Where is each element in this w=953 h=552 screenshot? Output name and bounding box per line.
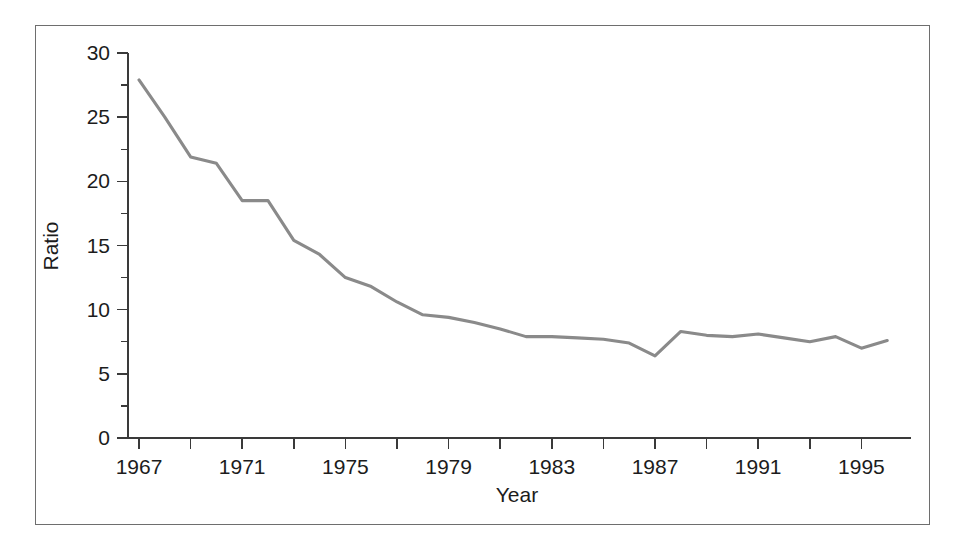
- y-axis-ticks: [117, 53, 128, 438]
- y-tick-label: 20: [87, 169, 110, 192]
- y-axis-title: Ratio: [39, 221, 62, 270]
- x-tick-label: 1995: [838, 455, 885, 478]
- x-axis-title: Year: [496, 483, 538, 506]
- figure-frame: 051015202530 196719711975197919831987199…: [35, 25, 930, 525]
- y-tick-label: 10: [87, 298, 110, 321]
- x-tick-label: 1983: [528, 455, 575, 478]
- x-tick-label: 1971: [219, 455, 266, 478]
- x-tick-label: 1991: [735, 455, 782, 478]
- y-tick-label: 25: [87, 105, 110, 128]
- y-tick-label: 15: [87, 234, 110, 257]
- line-chart: 051015202530 196719711975197919831987199…: [36, 26, 928, 523]
- y-tick-label: 30: [87, 41, 110, 64]
- x-tick-label: 1975: [322, 455, 369, 478]
- data-series-line: [139, 80, 887, 356]
- x-axis-ticks: [139, 438, 861, 449]
- y-tick-label: 5: [98, 362, 110, 385]
- x-tick-label: 1979: [425, 455, 472, 478]
- x-axis-tick-labels: 19671971197519791983198719911995: [116, 455, 885, 478]
- y-tick-label: 0: [98, 426, 110, 449]
- x-tick-label: 1987: [632, 455, 679, 478]
- y-axis-tick-labels: 051015202530: [87, 41, 110, 449]
- chart-page: 051015202530 196719711975197919831987199…: [0, 0, 953, 552]
- x-tick-label: 1967: [116, 455, 163, 478]
